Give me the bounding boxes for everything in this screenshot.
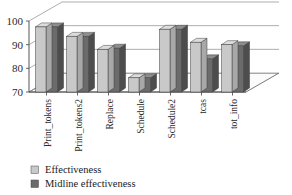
legend-label-effectiveness: Effectiveness <box>45 164 101 175</box>
bar-side <box>58 23 64 92</box>
xtick-label-Schedule: Schedule <box>136 99 146 134</box>
xtick-label-Schedule2: Schedule2 <box>167 99 177 139</box>
chart-container: 708090100Print_tokensPrint_tokens2Replac… <box>0 0 292 195</box>
legend-label-midline-effectiveness: Midline effectiveness <box>45 178 136 189</box>
bar-front <box>160 29 171 92</box>
bar-side <box>244 42 250 92</box>
bar-front <box>98 49 109 92</box>
bar-side <box>120 44 126 92</box>
bar-front <box>67 36 78 92</box>
xtick-label-Print_tokens2: Print_tokens2 <box>74 99 84 152</box>
xtick-label-tot_info: tot_info <box>229 99 239 129</box>
ytick-label-70: 70 <box>12 86 24 98</box>
bar-Schedule2-effectiveness <box>160 25 177 92</box>
bar-side <box>182 25 188 92</box>
bar-side <box>232 41 238 92</box>
ytick-label-80: 80 <box>12 62 24 74</box>
gridline-depth-100 <box>29 2 62 21</box>
bar-Print_tokens-effectiveness <box>36 23 53 92</box>
bar-tot_info-effectiveness <box>222 41 239 92</box>
bar-side <box>201 38 207 92</box>
legend-swatch-effectiveness <box>31 166 39 174</box>
bar-side <box>170 25 176 92</box>
bar-side <box>108 45 114 92</box>
ytick-label-90: 90 <box>12 39 24 51</box>
bar-side <box>89 32 95 92</box>
legend-swatch-midline-effectiveness <box>31 180 39 188</box>
xtick-label-tcas: tcas <box>198 99 208 114</box>
bar-tcas-effectiveness <box>191 38 208 92</box>
bar-Print_tokens2-effectiveness <box>67 32 84 92</box>
bar-front <box>191 42 202 92</box>
bar-front <box>129 78 140 92</box>
bar-front <box>222 45 233 92</box>
bar-chart-3d: 708090100Print_tokensPrint_tokens2Replac… <box>0 0 292 195</box>
bar-side <box>46 23 52 92</box>
bar-Replace-effectiveness <box>98 45 115 92</box>
ytick-label-100: 100 <box>7 15 24 27</box>
bar-side <box>77 32 83 92</box>
xtick-label-Print_tokens: Print_tokens <box>43 99 53 147</box>
xtick-label-Replace: Replace <box>105 99 115 130</box>
bar-front <box>36 27 47 92</box>
bar-Schedule-effectiveness <box>129 74 146 92</box>
bar-side <box>213 55 219 92</box>
